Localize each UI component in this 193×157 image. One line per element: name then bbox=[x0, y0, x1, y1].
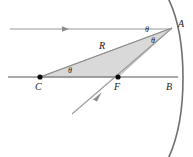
label-point-f: F bbox=[114, 82, 120, 92]
label-point-b: B bbox=[166, 82, 172, 92]
reflected-ray-arrowhead-icon bbox=[93, 93, 102, 102]
point-marker-c bbox=[37, 74, 42, 79]
incident-ray-arrowhead-icon bbox=[62, 26, 69, 32]
point-marker-f bbox=[115, 74, 120, 79]
label-point-c: C bbox=[35, 82, 42, 92]
label-radius-r: R bbox=[99, 41, 105, 51]
label-point-a: A bbox=[178, 19, 184, 29]
label-theta-upper-at-a: θ bbox=[145, 26, 149, 34]
label-theta-at-c: θ bbox=[68, 67, 72, 75]
diagram-canvas bbox=[0, 0, 193, 157]
optics-ray-diagram: A B C F R θ θ θ bbox=[0, 0, 193, 157]
label-theta-lower-at-a: θ bbox=[151, 37, 155, 45]
